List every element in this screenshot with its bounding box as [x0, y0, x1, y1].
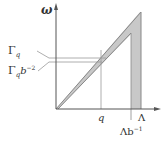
upper-dispersion-line: [56, 12, 141, 109]
lower-dispersion-line: [58, 33, 131, 109]
lambda-tick-label: Λ: [137, 112, 146, 123]
gamma-q-label: Γq: [8, 44, 21, 59]
omega-label: ω: [41, 3, 53, 17]
gamma-q-b-label: Γqb−2: [8, 64, 36, 79]
lambda-b-inv-label: Λb−1: [119, 125, 142, 137]
y-axis-arrow-icon: [54, 3, 58, 10]
q-tick-label: q: [98, 112, 104, 123]
dispersion-diagram: ω Γq Γqb−2 q Λ Λb−1: [0, 0, 162, 142]
gamma-q-b-leader: [38, 62, 56, 71]
gamma-q-leader: [37, 51, 56, 58]
x-axis-arrow-icon: [154, 107, 161, 111]
